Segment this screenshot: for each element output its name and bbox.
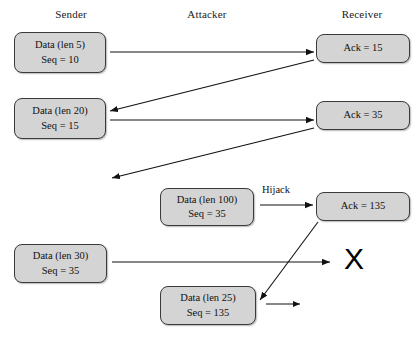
packet-box-receiver-ack-3: Ack = 135 xyxy=(316,192,410,221)
packet-drop-x-marker: X xyxy=(344,244,364,274)
column-header-attacker: Attacker xyxy=(176,8,238,20)
packet-box-sender-data-1: Data (len 5) Seq = 10 xyxy=(14,32,106,73)
packet-line-2: Seq = 135 xyxy=(187,306,230,320)
packet-line-1: Data (len 20) xyxy=(32,104,87,118)
packet-line-2: Seq = 10 xyxy=(41,53,78,67)
hijack-label: Hijack xyxy=(262,184,290,195)
packet-line-1: Data (len 100) xyxy=(177,193,238,207)
diagram-canvas: Sender Attacker Receiver Data ( xyxy=(0,0,418,337)
arrow-ack35-to-sender xyxy=(112,128,314,178)
packet-line-1: Ack = 15 xyxy=(343,41,382,55)
arrow-ack135-to-attacker xyxy=(260,222,318,300)
packet-box-sender-data-2: Data (len 20) Seq = 15 xyxy=(14,98,106,139)
packet-line-2: Seq = 15 xyxy=(41,119,78,133)
packet-line-2: Seq = 35 xyxy=(42,264,79,278)
arrow-ack15-to-sender xyxy=(110,60,314,111)
packet-box-attacker-data-1: Data (len 100) Seq = 35 xyxy=(160,188,254,226)
packet-line-2: Seq = 35 xyxy=(188,207,225,221)
packet-box-attacker-data-2: Data (len 25) Seq = 135 xyxy=(160,286,256,325)
packet-box-receiver-ack-1: Ack = 15 xyxy=(316,34,410,63)
column-header-receiver: Receiver xyxy=(331,8,393,20)
packet-line-1: Data (len 30) xyxy=(33,249,88,263)
column-header-sender: Sender xyxy=(40,8,102,20)
packet-line-1: Data (len 5) xyxy=(35,38,85,52)
packet-line-1: Ack = 135 xyxy=(341,199,385,213)
packet-line-1: Data (len 25) xyxy=(180,291,235,305)
packet-box-sender-data-3: Data (len 30) Seq = 35 xyxy=(14,244,107,283)
packet-box-receiver-ack-2: Ack = 35 xyxy=(316,101,410,130)
packet-line-1: Ack = 35 xyxy=(343,108,382,122)
